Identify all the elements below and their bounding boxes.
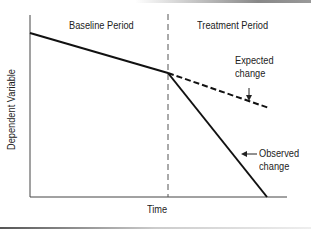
observed-label-2: change: [259, 160, 289, 172]
x-axis-label: Time: [147, 203, 167, 215]
expected-label-1: Expected: [235, 54, 274, 66]
diagram-canvas: [0, 0, 311, 229]
observed-arrow-head: [241, 151, 247, 157]
baseline-period-label: Baseline Period: [69, 19, 134, 31]
expected-label-2: change: [235, 67, 265, 79]
treatment-period-label: Treatment Period: [197, 19, 268, 31]
observed-label-1: Observed: [259, 147, 299, 159]
observed-line: [168, 73, 267, 197]
baseline-line: [30, 33, 168, 73]
y-axis-label: Dependent Variable: [5, 69, 17, 150]
